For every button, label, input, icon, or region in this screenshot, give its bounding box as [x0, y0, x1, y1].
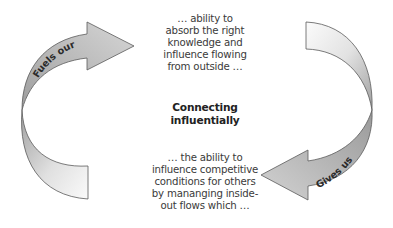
- text-line: influence flowing: [140, 49, 270, 61]
- text-line: … the ability to: [130, 152, 280, 164]
- text-line: knowledge and: [140, 37, 270, 49]
- cycle-band-bottom-left: [22, 110, 88, 199]
- title-line: Connecting: [140, 101, 270, 114]
- text-line: from outside …: [140, 61, 270, 73]
- text-line: absorb the right: [140, 25, 270, 37]
- text-line: by mananging inside-: [130, 188, 280, 200]
- inside-out-description: … the ability to influence competitive c…: [130, 152, 280, 212]
- outside-in-description: … ability to absorb the right knowledge …: [140, 13, 270, 73]
- text-line: … ability to: [140, 13, 270, 25]
- text-line: influence competitive: [130, 164, 280, 176]
- text-line: conditions for others: [130, 176, 280, 188]
- title-line: influentially: [140, 114, 270, 127]
- text-line: out flows which …: [130, 200, 280, 212]
- cycle-band-top-right: [306, 22, 372, 110]
- diagram-title: Connecting influentially: [140, 101, 270, 127]
